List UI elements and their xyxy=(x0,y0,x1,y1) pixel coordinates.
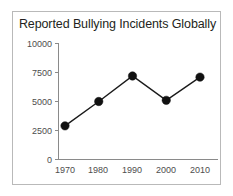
x-tick-label-1990: 1990 xyxy=(122,165,142,175)
line-chart-plot: 10000 7500 5000 2500 0 1970 1980 1990 20… xyxy=(1,1,233,196)
x-tick-label-1970: 1970 xyxy=(55,165,75,175)
x-tick-label-2000: 2000 xyxy=(156,165,176,175)
y-tick-label-0: 0 xyxy=(47,155,52,165)
y-tick-label-2500: 2500 xyxy=(32,126,52,136)
data-point-2010 xyxy=(196,73,204,81)
y-tick-label-7500: 7500 xyxy=(32,68,52,78)
x-tick-label-2010: 2010 xyxy=(190,165,210,175)
series-line xyxy=(65,76,200,126)
y-tick-label-10000: 10000 xyxy=(27,39,52,49)
data-point-2000 xyxy=(162,96,170,104)
data-point-1990 xyxy=(128,72,136,80)
series-markers xyxy=(61,72,204,130)
chart-figure: Reported Bullying Incidents Globally 100… xyxy=(12,11,221,185)
data-point-1980 xyxy=(95,97,103,105)
y-tick-label-5000: 5000 xyxy=(32,97,52,107)
data-point-1970 xyxy=(61,122,69,130)
x-tick-label-1980: 1980 xyxy=(88,165,108,175)
